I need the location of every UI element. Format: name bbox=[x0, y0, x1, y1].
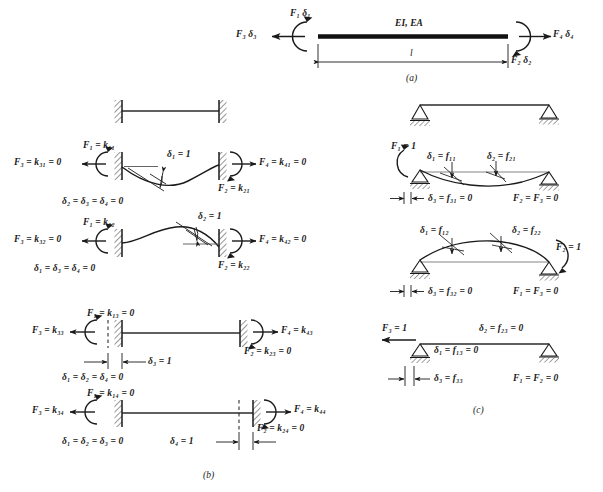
case-f2-label-load: F₂ = 1 bbox=[556, 243, 581, 253]
case-f1-label-d2: δ₂ = f₂₁ bbox=[487, 152, 516, 162]
case-k4-label-f1: F₁ = k₁₄ = 0 bbox=[87, 389, 134, 399]
panel-a-label-f3d3: F₃ δ₃ bbox=[236, 30, 257, 40]
case-k3-label-unit: δ₃ = 1 bbox=[148, 357, 172, 367]
case-f1-label-zeros: F₂ = F₃ = 0 bbox=[513, 194, 558, 204]
case-k2-label-f4: F₄ = k₄₂ = 0 bbox=[259, 235, 306, 245]
panel-c-tag: (c) bbox=[473, 405, 484, 415]
case-f1-label-d3: δ₃ = f₃₁ = 0 bbox=[428, 194, 472, 204]
case-f3-label-zeros: F₁ = F₂ = 0 bbox=[513, 374, 558, 384]
case-k1-label-zeros: δ₂ = δ₃ = δ₄ = 0 bbox=[62, 197, 123, 207]
case-k4-label-f2: F₂ = k₂₄ = 0 bbox=[257, 424, 304, 434]
case-k1-label-f2: F₂ = k₂₁ bbox=[218, 184, 250, 194]
case-f2-label-d1: δ₁ = f₁₂ bbox=[420, 226, 449, 236]
panel-a-label-f1d1: F₁ δ₁ bbox=[290, 9, 311, 19]
case-f3-label-load: F₃ = 1 bbox=[382, 324, 407, 334]
case-k2-label-unit: δ₂ = 1 bbox=[198, 212, 222, 222]
case-f2-label-d2: δ₂ = f₂₂ bbox=[512, 226, 541, 236]
case-k1-label-f1: F₁ = k₁₁ bbox=[83, 141, 115, 151]
case-k2-label-f3: F₃ = k₃₂ = 0 bbox=[14, 235, 61, 245]
panel-a-label-f4d4: F₄ δ₄ bbox=[553, 30, 574, 40]
case-k3-label-f4: F₄ = k₄₃ bbox=[281, 326, 313, 336]
case-f2-label-d3: δ₃ = f₃₂ = 0 bbox=[428, 287, 472, 297]
case-k3-label-zeros: δ₁ = δ₂ = δ₄ = 0 bbox=[62, 373, 123, 383]
fixed-support-right bbox=[219, 100, 227, 123]
case-k4-label-zeros: δ₁ = δ₂ = δ₃ = 0 bbox=[62, 437, 123, 447]
fixed-support-left bbox=[115, 100, 123, 123]
case-f1-label-load: F₁ = 1 bbox=[391, 142, 416, 152]
figure-vector-layer bbox=[0, 0, 603, 492]
case-f3-label-d3: δ₃ = f₃₃ bbox=[434, 374, 463, 384]
case-k4-label-unit: δ₄ = 1 bbox=[170, 437, 194, 447]
panel-a-label-f2d2: F₂ δ₂ bbox=[511, 56, 532, 66]
case-f3-label-d2: δ₂ = f₂₃ = 0 bbox=[479, 324, 523, 334]
case-k1-label-f3: F₃ = k₃₁ = 0 bbox=[14, 158, 61, 168]
case-k2-label-zeros: δ₁ = δ₃ = δ₄ = 0 bbox=[34, 264, 95, 274]
case-k1-label-unit: δ₁ = 1 bbox=[167, 150, 191, 160]
case-f1-label-d1: δ₁ = f₁₁ bbox=[427, 152, 456, 162]
case-k3-label-f3: F₃ = k₃₃ bbox=[32, 326, 64, 336]
case-k3-label-f1: F₁ = k₁₃ = 0 bbox=[87, 309, 134, 319]
panel-c-reference-beam bbox=[410, 105, 559, 126]
panel-a-tag: (a) bbox=[406, 73, 417, 83]
case-f2-label-zeros: F₁ = F₃ = 0 bbox=[513, 287, 558, 297]
case-k2-label-f1: F₁ = k₁₂ bbox=[83, 218, 115, 228]
case-k1-label-f4: F₄ = k₄₁ = 0 bbox=[259, 158, 306, 168]
case-k4-label-f3: F₃ = k₃₄ bbox=[32, 406, 64, 416]
panel-b-tag: (b) bbox=[203, 470, 214, 480]
panel-b-case-3 bbox=[70, 315, 278, 369]
panel-a-label-member: EI, EA bbox=[395, 19, 423, 29]
case-f3-label-d1: δ₁ = f₁₃ = 0 bbox=[434, 346, 478, 356]
case-k4-label-f4: F₄ = k₄₄ bbox=[294, 405, 326, 415]
panel-a-label-length: l bbox=[410, 49, 413, 59]
case-k2-label-f2: F₂ = k₂₂ bbox=[218, 261, 250, 271]
panel-b-reference-beam bbox=[115, 100, 227, 123]
case-k3-label-f2: F₂ = k₂₃ = 0 bbox=[244, 347, 291, 357]
figure-canvas: F₁ δ₁ F₃ δ₃ F₄ δ₄ F₂ δ₂ EI, EA l (a) F₁ … bbox=[0, 0, 603, 492]
